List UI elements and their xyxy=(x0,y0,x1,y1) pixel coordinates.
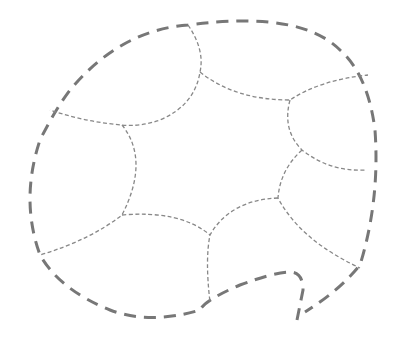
divider-line xyxy=(200,72,368,100)
divider-line xyxy=(50,25,201,125)
divider-line xyxy=(208,198,279,302)
inner-dividers xyxy=(40,25,368,302)
divider-line xyxy=(122,214,210,235)
divider-line xyxy=(288,100,365,170)
outer-boundary xyxy=(30,21,376,320)
divider-line xyxy=(278,150,360,268)
dashed-region-diagram xyxy=(0,0,416,344)
divider-line xyxy=(40,125,136,255)
